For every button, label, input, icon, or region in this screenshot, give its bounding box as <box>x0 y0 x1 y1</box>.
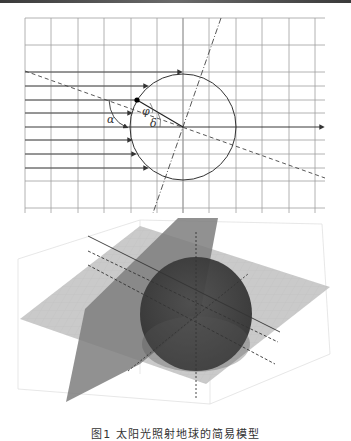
alpha-label: α <box>107 113 115 126</box>
terminator-dashed-line <box>25 71 325 178</box>
delta-arc <box>158 113 161 127</box>
grid-vertical-lines <box>25 18 315 213</box>
phi-label: φ <box>142 105 150 118</box>
delta-label: δ <box>150 117 157 130</box>
figure-caption: 图1 太阳光照射地球的简易模型 <box>0 425 351 441</box>
sunlight-cross-section-diagram: α φ δ <box>0 0 351 215</box>
earth-3d-model-diagram <box>0 214 351 424</box>
observer-point <box>134 97 139 102</box>
